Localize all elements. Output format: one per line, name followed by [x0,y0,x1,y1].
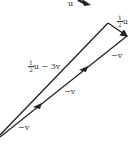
resultant-vector [0,23,108,135]
neg-v-arrowhead-1-icon [79,66,88,72]
neg-v-label-1: −v [111,52,122,60]
half-u-label: 12u [117,15,128,28]
resultant-label: 12u − 3v [28,60,60,73]
top-u-label: u [68,0,73,8]
neg-v-label-2: −v [64,88,75,96]
neg-v-label-3: −v [18,124,29,132]
top-arrowhead-icon [82,0,91,6]
neg-v-arrowhead-2-icon [33,103,42,109]
